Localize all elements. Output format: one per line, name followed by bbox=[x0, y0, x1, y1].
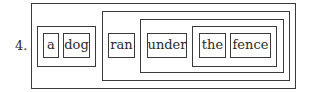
word-a: a bbox=[43, 33, 59, 58]
word-fence: fence bbox=[230, 33, 271, 58]
word-ran: ran bbox=[108, 33, 135, 58]
word-dog: dog bbox=[63, 33, 90, 58]
word-under: under bbox=[147, 33, 187, 58]
item-number-label: 4. bbox=[15, 39, 27, 52]
word-the: the bbox=[199, 33, 226, 58]
